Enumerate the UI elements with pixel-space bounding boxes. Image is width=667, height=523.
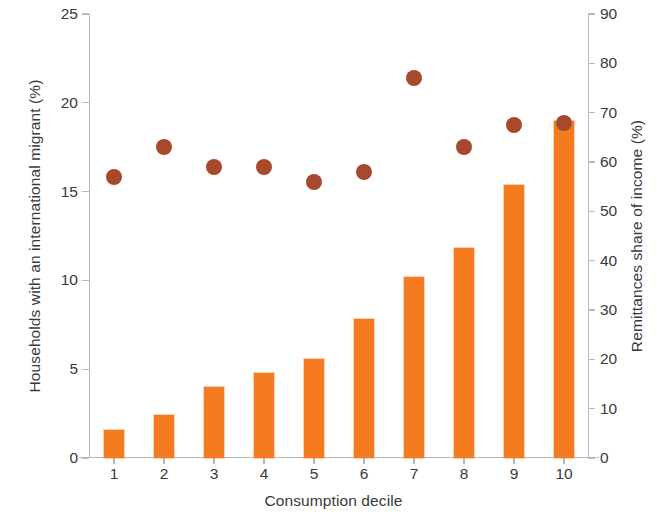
y-axis-right-title: Remittances share of income (%): [628, 26, 646, 446]
bar: [254, 373, 274, 458]
y-axis-right-tick: [588, 161, 595, 162]
y-axis-right-tick-label: 0: [600, 449, 609, 467]
x-axis-tick-label: 9: [510, 465, 519, 483]
bar: [104, 430, 124, 458]
y-axis-right-tick-label: 30: [600, 301, 617, 319]
x-axis-title: Consumption decile: [0, 492, 667, 510]
scatter-point: [356, 164, 372, 180]
y-axis-left-tick-label: 10: [61, 271, 78, 289]
x-axis-tick: [213, 457, 214, 464]
y-axis-right-tick: [588, 359, 595, 360]
x-axis-tick-label: 8: [460, 465, 469, 483]
scatter-point: [156, 139, 172, 155]
y-axis-left-tick-label: 0: [69, 449, 78, 467]
y-axis-right-tick: [588, 457, 595, 458]
y-axis-left-tick: [82, 280, 89, 281]
scatter-point: [556, 115, 572, 131]
y-axis-right-tick-label: 40: [600, 252, 617, 270]
y-axis-left-tick: [82, 457, 89, 458]
x-axis-tick: [163, 457, 164, 464]
x-axis-tick: [563, 457, 564, 464]
scatter-point: [256, 159, 272, 175]
y-axis-right-tick-label: 10: [600, 400, 617, 418]
bar: [354, 319, 374, 458]
bar: [154, 415, 174, 458]
scatter-point: [206, 159, 222, 175]
y-axis-right-tick-label: 70: [600, 104, 617, 122]
x-axis-tick-label: 7: [410, 465, 419, 483]
y-axis-right-tick: [588, 63, 595, 64]
chart-figure: Households with an international migrant…: [0, 0, 667, 523]
y-axis-left-tick-label: 15: [61, 183, 78, 201]
x-axis-tick-label: 6: [360, 465, 369, 483]
scatter-point: [406, 70, 422, 86]
y-axis-right-tick-label: 90: [600, 5, 617, 23]
scatter-point: [456, 139, 472, 155]
y-axis-left-title: Households with an international migrant…: [26, 26, 44, 446]
plot-area: 0510152025 0102030405060708090 123456789…: [89, 14, 589, 458]
x-axis-tick-label: 5: [310, 465, 319, 483]
scatter-point: [106, 169, 122, 185]
y-axis-left-tick: [82, 191, 89, 192]
y-axis-right-tick: [588, 211, 595, 212]
y-axis-left-spine: [89, 14, 90, 458]
scatter-point: [506, 117, 522, 133]
y-axis-right-tick-label: 60: [600, 153, 617, 171]
scatter-point: [306, 174, 322, 190]
y-axis-right-tick-label: 20: [600, 350, 617, 368]
y-axis-right-tick: [588, 408, 595, 409]
y-axis-left-tick-label: 25: [61, 5, 78, 23]
bar: [504, 185, 524, 459]
x-axis-tick-label: 10: [555, 465, 572, 483]
x-axis-tick: [513, 457, 514, 464]
y-axis-right-tick-label: 50: [600, 202, 617, 220]
x-axis-tick-label: 2: [160, 465, 169, 483]
bar: [404, 277, 424, 458]
x-axis-tick: [263, 457, 264, 464]
y-axis-right-tick-label: 80: [600, 54, 617, 72]
x-axis-tick: [463, 457, 464, 464]
y-axis-left-tick: [82, 102, 89, 103]
bar: [554, 121, 574, 458]
y-axis-left-tick-label: 5: [69, 360, 78, 378]
y-axis-right-tick: [588, 260, 595, 261]
x-axis-tick-label: 3: [210, 465, 219, 483]
y-axis-right-tick: [588, 309, 595, 310]
y-axis-left-tick: [82, 369, 89, 370]
x-axis-tick: [363, 457, 364, 464]
x-axis-tick-label: 1: [110, 465, 119, 483]
x-axis-tick-label: 4: [260, 465, 269, 483]
y-axis-right-tick: [588, 112, 595, 113]
x-axis-tick: [313, 457, 314, 464]
bar: [454, 248, 474, 458]
x-axis-tick: [413, 457, 414, 464]
y-axis-left-tick-label: 20: [61, 94, 78, 112]
y-axis-right-tick: [588, 13, 595, 14]
x-axis-tick: [113, 457, 114, 464]
bar: [204, 387, 224, 458]
bar: [304, 359, 324, 458]
y-axis-left-tick: [82, 13, 89, 14]
y-axis-right-spine: [588, 14, 589, 458]
